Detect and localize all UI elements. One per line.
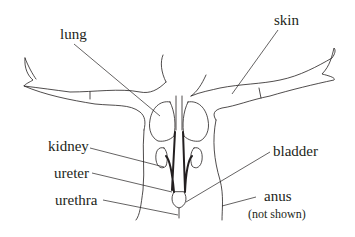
- neck-outline: [161, 55, 166, 82]
- ureters: [166, 132, 192, 192]
- leader-urethra: [103, 200, 178, 215]
- label-kidney: kidney: [48, 139, 89, 154]
- label-urethra: urethra: [55, 193, 97, 208]
- label-ureter: ureter: [54, 166, 89, 181]
- torso-right-outline: [214, 120, 223, 220]
- leader-skin: [232, 30, 278, 94]
- right-kidney: [191, 148, 203, 168]
- leader-ureter: [92, 173, 172, 192]
- label-bladder: bladder: [273, 144, 318, 159]
- left-lung: [149, 102, 174, 142]
- leader-anus: [222, 197, 256, 206]
- label-skin: skin: [274, 13, 299, 28]
- right-lung: [183, 102, 208, 142]
- leader-kidney: [90, 148, 164, 167]
- bladder-shape: [172, 192, 186, 208]
- trachea: [176, 96, 182, 130]
- leader-bladder: [186, 152, 270, 202]
- left-arm-outline: [24, 58, 166, 93]
- body-illustration: [0, 0, 355, 237]
- label-anus: anus: [264, 189, 292, 204]
- label-lung: lung: [60, 27, 87, 42]
- label-anus-note: (not shown): [248, 208, 306, 220]
- left-kidney: [156, 148, 168, 168]
- right-arm-outline: [191, 48, 335, 120]
